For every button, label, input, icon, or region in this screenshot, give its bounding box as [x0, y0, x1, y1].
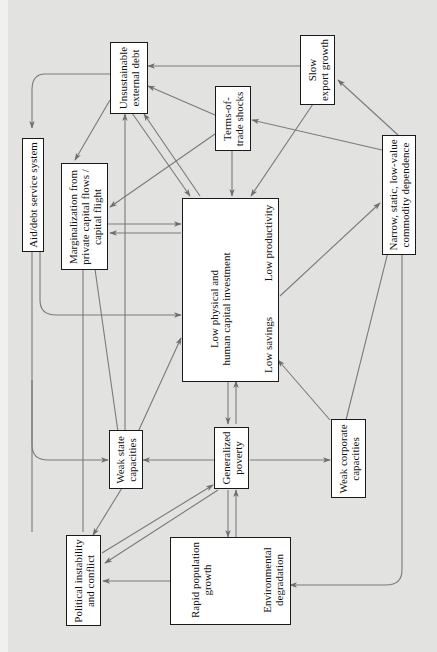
node-label: trade shocks [233, 91, 245, 146]
node-aid-debt-service-system: Aid/debt service system [22, 138, 44, 252]
node-label: Terms-of- [221, 91, 233, 146]
node-label: Low physical and [208, 234, 220, 384]
node-label: Generalized [220, 431, 232, 484]
node-label: Aid/debt service system [27, 142, 39, 248]
node-label: Weak corporate [337, 424, 349, 493]
node-narrow-commodity-dependence: Narrow, static, low-valuecommodity depen… [382, 135, 416, 255]
low-productivity-label: Low productivity [262, 193, 274, 293]
node-weak-corporate-capacities: Weak corporatecapacities [331, 419, 366, 498]
environmental-degradation-label: Environmental degradation [261, 530, 285, 630]
node-label: growth [201, 530, 213, 630]
node-label: capacities [126, 436, 138, 484]
node-label: and conflict [84, 539, 96, 622]
node-label: Narrow, static, low-value [387, 139, 399, 250]
node-label: capacities [349, 424, 361, 493]
node-political-instability-conflict: Political instabilityand conflict [66, 535, 101, 626]
node-label: external debt [129, 47, 141, 109]
node-label: capital flight [91, 169, 103, 265]
node-label: export growth [318, 39, 330, 101]
node-label: Unsustainable [117, 47, 129, 109]
node-label: human capital investment [220, 234, 232, 384]
node-label: Weak state [114, 436, 126, 484]
node-unsustainable-external-debt: Unsustainableexternal debt [110, 42, 148, 114]
node-label: private capital flows / [79, 169, 91, 265]
node-slow-export-growth: Slowexport growth [300, 35, 335, 105]
node-label: Low productivity [262, 205, 274, 282]
node-label: Low savings [262, 317, 274, 373]
node-label: Marginalization from [67, 169, 79, 265]
node-label: poverty [232, 431, 244, 484]
node-population-environment: Rapid population growth Environmental de… [170, 537, 291, 625]
low-savings-label: Low savings [262, 315, 274, 375]
node-label: Political instability [72, 539, 84, 622]
node-generalized-poverty: Generalizedpoverty [214, 427, 249, 489]
node-label: degradation [273, 530, 285, 630]
node-marginalization-capital-flows: Marginalization fromprivate capital flow… [61, 163, 108, 270]
node-terms-of-trade-shocks: Terms-of-trade shocks [215, 86, 251, 151]
node-label: Rapid population [189, 530, 201, 630]
node-label: Environmental [261, 530, 273, 630]
node-weak-state-capacities: Weak statecapacities [109, 430, 143, 489]
rapid-population-label: Rapid population growth [189, 530, 213, 630]
node-label: commodity dependence [399, 139, 411, 250]
node-label: Slow [306, 39, 318, 101]
low-investment-label: Low physical and human capital investmen… [208, 234, 232, 384]
node-center-investment-productivity-savings: Low physical and human capital investmen… [182, 198, 279, 382]
